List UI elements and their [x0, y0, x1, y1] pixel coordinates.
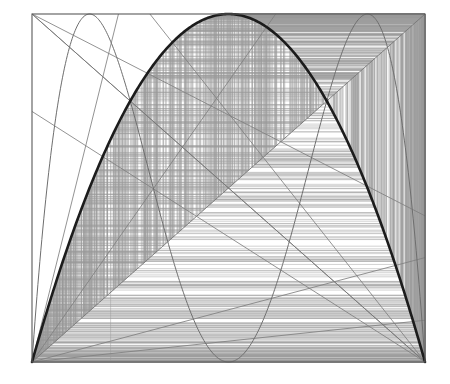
cobweb-figure: [0, 0, 450, 384]
cobweb-plot-svg: [0, 0, 450, 384]
